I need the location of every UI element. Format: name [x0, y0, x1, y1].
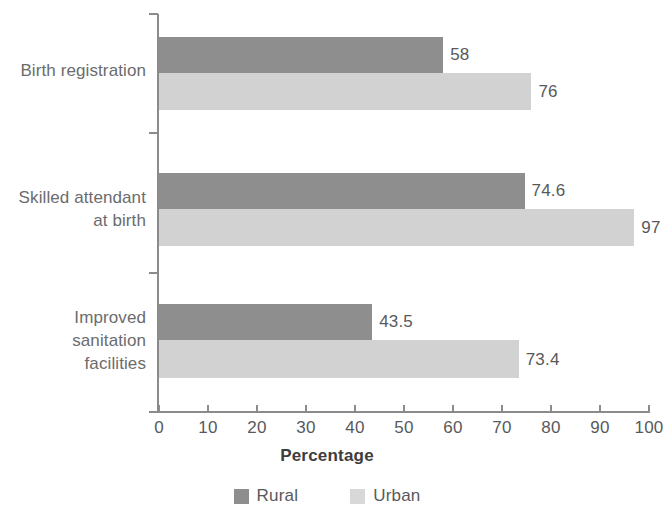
- bar-value-urban-skilled-attendant: 97: [641, 218, 660, 238]
- x-axis-tick: [207, 405, 209, 413]
- category-label-improved-sanitation: Improved sanitation facilities: [0, 306, 146, 375]
- x-axis-tick-label: 40: [345, 418, 364, 438]
- x-axis-tick: [599, 405, 601, 413]
- legend-label-rural: Rural: [257, 486, 299, 506]
- x-axis-tick: [452, 405, 454, 413]
- bar-value-urban-birth-registration: 76: [538, 82, 557, 102]
- y-axis-tick: [149, 132, 158, 134]
- x-axis-tick-label: 10: [198, 418, 217, 438]
- x-axis-tick-label: 20: [247, 418, 266, 438]
- legend-label-urban: Urban: [373, 486, 420, 506]
- x-axis-tick-label: 80: [541, 418, 560, 438]
- category-label-line: Birth registration: [0, 59, 146, 82]
- x-axis-title: Percentage: [0, 446, 654, 466]
- bar-rural-improved-sanitation: [159, 304, 372, 340]
- category-label-line: sanitation: [0, 329, 146, 352]
- bar-value-rural-skilled-attendant: 74.6: [532, 181, 566, 201]
- x-axis-tick: [354, 405, 356, 413]
- y-axis-tick: [149, 272, 158, 274]
- bar-urban-skilled-attendant: [159, 209, 634, 246]
- category-label-line: facilities: [0, 352, 146, 375]
- bar-urban-improved-sanitation: [159, 340, 519, 378]
- legend-item-rural: Rural: [234, 486, 299, 506]
- x-axis-tick-label: 0: [154, 418, 164, 438]
- category-label-line: Skilled attendant: [0, 186, 146, 209]
- bar-value-rural-birth-registration: 58: [450, 45, 469, 65]
- x-axis-tick: [158, 405, 160, 413]
- x-axis-tick-label: 50: [394, 418, 413, 438]
- category-label-skilled-attendant: Skilled attendant at birth: [0, 186, 146, 232]
- y-axis-tick: [149, 13, 158, 15]
- chart-legend: Rural Urban: [0, 486, 654, 506]
- category-label-line: Improved: [0, 306, 146, 329]
- x-axis-tick: [550, 405, 552, 413]
- x-axis-tick-label: 100: [635, 418, 663, 438]
- legend-swatch-rural-icon: [234, 489, 249, 504]
- bar-urban-birth-registration: [159, 73, 531, 110]
- category-label-line: at birth: [0, 209, 146, 232]
- x-axis-tick: [256, 405, 258, 413]
- x-axis-tick-label: 60: [443, 418, 462, 438]
- bar-value-rural-improved-sanitation: 43.5: [379, 312, 413, 332]
- bar-rural-skilled-attendant: [159, 173, 525, 209]
- x-axis-tick-label: 70: [492, 418, 511, 438]
- x-axis-tick-label: 90: [590, 418, 609, 438]
- category-label-birth-registration: Birth registration: [0, 59, 146, 82]
- legend-item-urban: Urban: [350, 486, 420, 506]
- x-axis-tick: [403, 405, 405, 413]
- y-axis-tick: [149, 411, 158, 413]
- bar-value-urban-improved-sanitation: 73.4: [526, 350, 560, 370]
- bar-rural-birth-registration: [159, 37, 443, 73]
- x-axis-tick: [648, 405, 650, 413]
- x-axis-tick: [501, 405, 503, 413]
- x-axis-tick: [305, 405, 307, 413]
- legend-swatch-urban-icon: [350, 489, 365, 504]
- x-axis-tick-label: 30: [296, 418, 315, 438]
